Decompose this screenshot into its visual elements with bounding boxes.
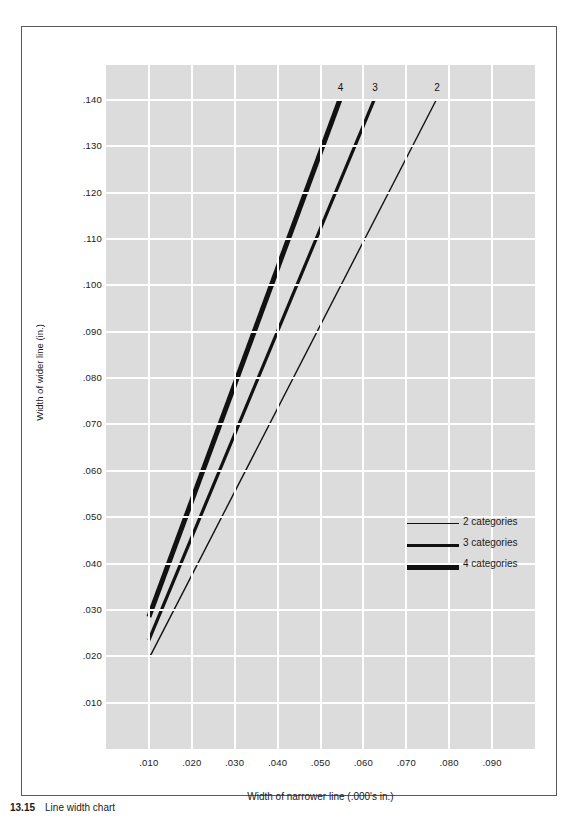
x-axis-title: Width of narrower line (.000's in.): [106, 791, 535, 802]
legend-item: 3 categories: [407, 535, 537, 556]
y-tick-label: .090: [40, 327, 102, 337]
y-tick-label: .100: [40, 280, 102, 290]
gridline-vertical-010: [148, 65, 150, 749]
gridline-vertical-080: [448, 65, 450, 749]
y-tick-label: .030: [40, 605, 102, 615]
y-tick-label: .130: [40, 141, 102, 151]
legend-label: 2 categories: [463, 516, 517, 527]
x-axis-tick-labels: .010.020.030.040.050.060.070.080.090: [106, 758, 535, 772]
y-tick-label: .110: [40, 234, 102, 244]
figure-frame: .140.130.120.110.100.090.080.070.060.050…: [21, 26, 557, 796]
y-tick-label: .020: [40, 651, 102, 661]
gridline-horizontal-060: [106, 470, 535, 472]
gridline-vertical-090: [491, 65, 493, 749]
series-end-label-2: 2: [434, 82, 440, 93]
y-axis-title: Width of wider line (in.): [34, 293, 45, 453]
series-line-3: [149, 100, 374, 640]
y-tick-label: .120: [40, 188, 102, 198]
y-tick-label: .010: [40, 698, 102, 708]
legend-swatch: [407, 523, 459, 524]
y-axis-tick-labels: .140.130.120.110.100.090.080.070.060.050…: [38, 65, 102, 749]
series-end-label-4: 4: [338, 82, 344, 93]
figure-caption: 13.15Line width chart: [10, 802, 570, 813]
legend-swatch: [407, 565, 459, 570]
y-tick-label: .080: [40, 373, 102, 383]
gridline-horizontal-140: [106, 99, 535, 101]
gridline-horizontal-080: [106, 377, 535, 379]
series-end-label-3: 3: [372, 82, 378, 93]
gridline-horizontal-100: [106, 284, 535, 286]
legend-item: 4 categories: [407, 556, 537, 577]
gridline-horizontal-030: [106, 609, 535, 611]
gridline-horizontal-090: [106, 331, 535, 333]
y-tick-label: .040: [40, 559, 102, 569]
y-tick-label: .140: [40, 95, 102, 105]
gridline-vertical-030: [234, 65, 236, 749]
gridline-vertical-050: [320, 65, 322, 749]
legend-label: 4 categories: [463, 558, 517, 569]
gridline-horizontal-010: [106, 702, 535, 704]
figure-caption-number: 13.15: [10, 802, 35, 813]
gridline-horizontal-070: [106, 423, 535, 425]
plot-area: 234: [106, 65, 535, 749]
gridline-horizontal-130: [106, 145, 535, 147]
legend-label: 3 categories: [463, 537, 517, 548]
gridline-vertical-040: [277, 65, 279, 749]
figure-caption-text: Line width chart: [45, 802, 115, 813]
y-tick-label: .050: [40, 512, 102, 522]
y-tick-label: .060: [40, 466, 102, 476]
gridline-vertical-020: [191, 65, 193, 749]
gridline-vertical-060: [362, 65, 364, 749]
legend-item: 2 categories: [407, 514, 537, 535]
x-tick-label: .090: [467, 758, 517, 768]
chart-legend: 2 categories3 categories4 categories: [407, 514, 537, 577]
y-tick-label: .070: [40, 419, 102, 429]
gridline-vertical-070: [405, 65, 407, 749]
series-line-4: [149, 100, 340, 617]
legend-swatch: [407, 544, 459, 547]
gridline-horizontal-120: [106, 192, 535, 194]
gridline-horizontal-020: [106, 655, 535, 657]
gridline-horizontal-110: [106, 238, 535, 240]
